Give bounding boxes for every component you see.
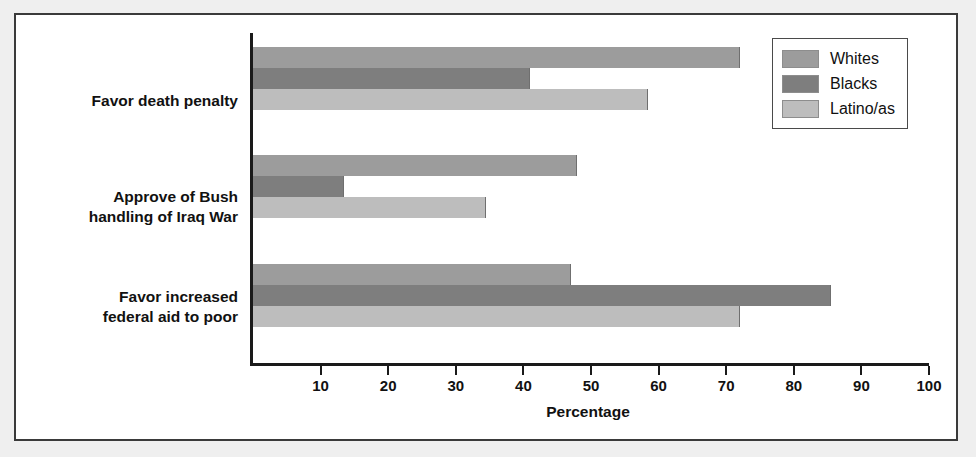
chart-panel: Favor death penalty Approve of Bush hand… [14,13,958,441]
x-axis-title: Percentage [250,403,926,421]
legend-item-blacks: Blacks [782,71,895,96]
x-axis-tick-70 [725,366,727,375]
x-axis-tick-label-10: 10 [299,377,343,394]
x-axis-tick-label-80: 80 [772,377,816,394]
x-axis-tick-label-60: 60 [637,377,681,394]
bar-whites-approve-bush-iraq [253,155,577,176]
x-axis-tick-40 [522,366,524,375]
bar-whites-favor-federal-aid [253,264,571,285]
x-axis-tick-label-20: 20 [366,377,410,394]
category-label-approve-bush-iraq: Approve of Bush handling of Iraq War [16,187,238,228]
bar-latinos-favor-federal-aid [253,306,740,327]
x-axis-tick-label-100: 100 [907,377,951,394]
x-axis-tick-80 [793,366,795,375]
legend-swatch-icon [782,75,819,93]
x-axis-tick-label-50: 50 [569,377,613,394]
x-axis-tick-label-70: 70 [704,377,748,394]
bar-group-favor-federal-aid [253,264,929,327]
legend-item-latino-as: Latino/as [782,96,895,121]
bar-group-approve-bush-iraq [253,155,929,218]
category-label-favor-death-penalty: Favor death penalty [16,91,238,111]
legend-label: Latino/as [830,100,895,118]
category-label-favor-federal-aid: Favor increased federal aid to poor [16,287,238,328]
bar-blacks-approve-bush-iraq [253,176,344,197]
bar-blacks-favor-death-penalty [253,68,530,89]
x-axis-tick-100 [928,366,930,375]
legend-label: Blacks [830,75,877,93]
x-axis-tick-10 [320,366,322,375]
legend-swatch-icon [782,100,819,118]
legend: WhitesBlacksLatino/as [772,38,908,129]
bar-latinos-approve-bush-iraq [253,197,486,218]
legend-label: Whites [830,50,879,68]
bar-latinos-favor-death-penalty [253,89,648,110]
legend-item-whites: Whites [782,46,895,71]
x-axis-tick-label-30: 30 [434,377,478,394]
x-axis-tick-90 [860,366,862,375]
x-axis-tick-60 [658,366,660,375]
x-axis-tick-20 [387,366,389,375]
x-axis-tick-50 [590,366,592,375]
legend-swatch-icon [782,50,819,68]
x-axis-tick-30 [455,366,457,375]
x-axis-tick-label-90: 90 [839,377,883,394]
x-axis-tick-label-40: 40 [501,377,545,394]
bar-blacks-favor-federal-aid [253,285,831,306]
bar-whites-favor-death-penalty [253,47,740,68]
